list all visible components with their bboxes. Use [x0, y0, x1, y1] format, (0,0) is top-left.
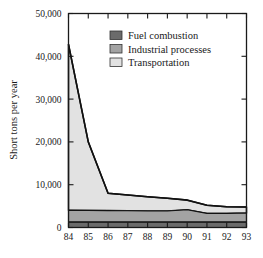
- chart-figure: 010,00020,00030,00040,00050,000 84858687…: [0, 0, 263, 258]
- stacked-area-chart: 010,00020,00030,00040,00050,000 84858687…: [0, 0, 263, 258]
- x-tick-label-91: 91: [202, 232, 212, 242]
- legend-label-industrial-processes: Industrial processes: [128, 44, 211, 55]
- legend-swatch-fuel-combustion: [110, 31, 122, 40]
- x-tick-label-88: 88: [143, 232, 153, 242]
- x-tick-label-84: 84: [64, 232, 74, 242]
- caption-cutoff-sliver: [0, 251, 263, 258]
- legend-label-fuel-combustion: Fuel combustion: [128, 30, 199, 41]
- legend-swatch-industrial-processes: [110, 45, 122, 54]
- y-tick-label-30000: 30,000: [35, 95, 61, 105]
- y-tick-label-50000: 50,000: [35, 9, 61, 19]
- x-tick-label-90: 90: [182, 232, 192, 242]
- x-tick-label-92: 92: [222, 232, 232, 242]
- x-tick-label-86: 86: [103, 232, 113, 242]
- legend-swatch-transportation: [110, 58, 122, 67]
- y-axis-title: Short tons per year: [8, 80, 19, 160]
- y-tick-label-10000: 10,000: [35, 180, 61, 190]
- y-tick-label-40000: 40,000: [35, 52, 61, 62]
- x-tick-label-85: 85: [84, 232, 94, 242]
- legend-label-transportation: Transportation: [128, 57, 190, 68]
- x-tick-label-87: 87: [123, 232, 133, 242]
- y-tick-label-0: 0: [57, 223, 62, 233]
- x-tick-label-89: 89: [163, 232, 173, 242]
- area-band-fuel-combustion: [69, 222, 247, 227]
- y-tick-label-20000: 20,000: [35, 137, 61, 147]
- x-tick-label-93: 93: [242, 232, 252, 242]
